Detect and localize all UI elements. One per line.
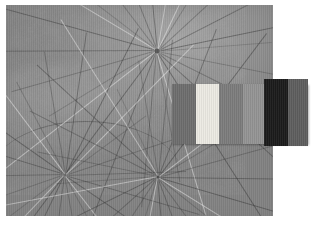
patch-dark-gray <box>172 84 196 144</box>
patch-charcoal <box>288 79 308 146</box>
patch-black <box>264 79 288 146</box>
patch-white <box>196 84 219 144</box>
patch-light-gray <box>243 84 264 144</box>
patch-mid-gray <box>219 84 243 144</box>
grayscale-calibration-strip <box>172 84 308 144</box>
screenshot-viewport <box>0 0 316 236</box>
